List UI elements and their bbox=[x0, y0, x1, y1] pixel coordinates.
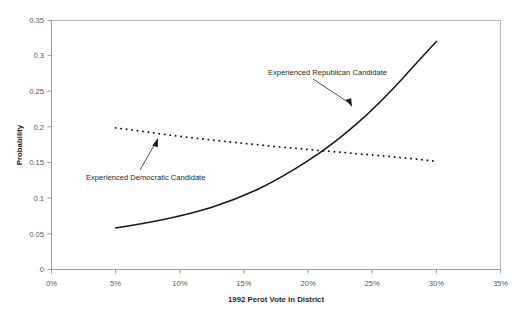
annotation-republican-leader bbox=[313, 79, 350, 104]
x-axis-title: 1992 Perot Vote in District bbox=[228, 295, 324, 304]
probability-line-chart: 0 0.05 0.1 0.15 0.2 0.25 0.3 0.35 0% 5% … bbox=[0, 0, 525, 318]
x-axis-tick-labels: 0% 5% 10% 15% 20% 25% 30% 35% bbox=[46, 279, 508, 288]
x-tick-label: 0% bbox=[46, 279, 57, 288]
y-tick-label: 0.2 bbox=[33, 123, 44, 132]
y-axis-tick-labels: 0 0.05 0.1 0.15 0.2 0.25 0.3 0.35 bbox=[29, 16, 44, 274]
annotation-republican-arrowhead bbox=[346, 98, 352, 107]
y-tick-label: 0.3 bbox=[33, 51, 44, 60]
x-tick-label: 5% bbox=[110, 279, 121, 288]
annotation-experienced-democratic-candidate: Experienced Democratic Candidate bbox=[86, 138, 205, 182]
y-tick-label: 0.05 bbox=[29, 230, 44, 239]
series-line-experienced-democratic-candidate bbox=[116, 128, 437, 161]
annotation-democratic-arrowhead bbox=[152, 138, 158, 147]
x-tick-label: 25% bbox=[365, 279, 380, 288]
x-tick-label: 20% bbox=[300, 279, 315, 288]
x-tick-label: 30% bbox=[429, 279, 444, 288]
annotation-democratic-leader bbox=[140, 142, 156, 170]
y-tick-label: 0.15 bbox=[29, 158, 44, 167]
annotation-republican-label: Experienced Republican Candidate bbox=[268, 68, 387, 77]
x-tick-label: 35% bbox=[493, 279, 508, 288]
plot-area-frame bbox=[52, 21, 501, 270]
y-tick-label: 0.1 bbox=[33, 194, 44, 203]
annotation-experienced-republican-candidate: Experienced Republican Candidate bbox=[268, 68, 387, 107]
chart-container: 0 0.05 0.1 0.15 0.2 0.25 0.3 0.35 0% 5% … bbox=[0, 0, 525, 318]
y-tick-label: 0.25 bbox=[29, 87, 44, 96]
x-tick-label: 10% bbox=[172, 279, 187, 288]
x-tick-label: 15% bbox=[236, 279, 251, 288]
y-tick-label: 0 bbox=[40, 265, 44, 274]
y-axis-ticks bbox=[48, 21, 52, 270]
y-axis-title: Probability bbox=[15, 124, 24, 165]
y-tick-label: 0.35 bbox=[29, 16, 44, 25]
x-axis-ticks bbox=[52, 270, 501, 274]
annotation-democratic-label: Experienced Democratic Candidate bbox=[86, 173, 205, 182]
